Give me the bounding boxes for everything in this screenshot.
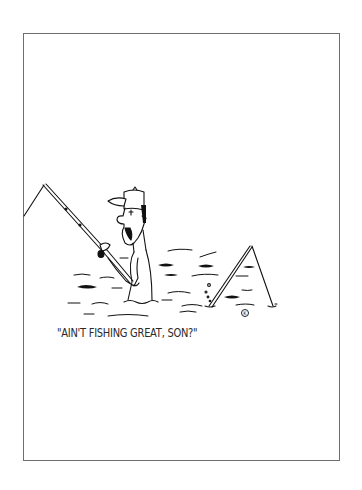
cap-crown bbox=[124, 190, 144, 210]
eye bbox=[129, 210, 133, 215]
dark-ripples bbox=[77, 264, 255, 299]
man-figure bbox=[108, 187, 152, 300]
artist-signature-icon: K bbox=[241, 309, 249, 317]
water-splash bbox=[124, 301, 158, 304]
fishing-line-right bbox=[252, 246, 273, 306]
cartoon-caption: "AIN'T FISHING GREAT, SON?" bbox=[57, 326, 186, 340]
fishing-line-left bbox=[24, 185, 44, 216]
cap-brim bbox=[108, 198, 126, 206]
cartoon-illustration bbox=[0, 0, 362, 490]
torso bbox=[128, 250, 152, 300]
water-waves bbox=[68, 249, 254, 316]
bubbles bbox=[205, 284, 211, 302]
fishing-reel bbox=[98, 243, 110, 258]
mouth bbox=[125, 228, 132, 240]
